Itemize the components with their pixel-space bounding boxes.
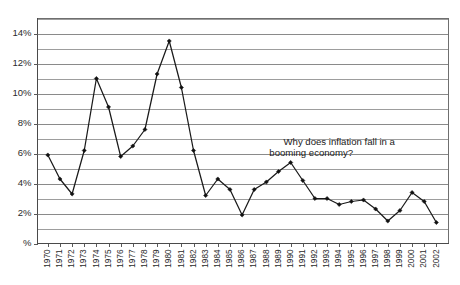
x-axis-tick-label: 1971 [55, 249, 64, 268]
x-axis-tick-label: 1985 [225, 249, 234, 268]
x-axis-tick-label: 1972 [67, 249, 76, 268]
x-axis-tick-label: 2002 [432, 249, 441, 268]
x-axis-tick-label: 1987 [249, 249, 258, 268]
y-axis-tick-label: 14% [12, 27, 32, 38]
annotation-line-1: Why does inflation fall in a [283, 136, 395, 147]
x-axis-tick-label: 1997 [371, 249, 380, 268]
x-axis-tick-label: 1983 [201, 249, 210, 268]
chart-canvas: %2%4%6%8%10%12%14% 197019711972197319741… [0, 0, 460, 285]
x-axis-tick-label: 1988 [262, 249, 271, 268]
x-axis-tick-label: 1995 [347, 249, 356, 268]
x-axis-tick-label: 1975 [104, 249, 113, 268]
x-axis-tick-label: 1994 [334, 249, 343, 268]
x-axis-tick-label: 1984 [213, 249, 222, 268]
x-axis-tick-label: 1999 [395, 249, 404, 268]
y-axis-tick-label: 6% [18, 147, 32, 158]
y-axis-tick-label: % [23, 237, 32, 248]
x-axis-tick-label: 1976 [116, 249, 125, 268]
x-axis-tick-label: 1980 [164, 249, 173, 268]
x-axis-tick-label: 2000 [407, 249, 416, 268]
annotation-line-2: booming economy? [269, 147, 353, 158]
y-axis-tick-label: 2% [18, 207, 32, 218]
x-axis-tick-label: 1990 [286, 249, 295, 268]
x-axis-tick-label: 1978 [140, 249, 149, 268]
x-axis-tick-label: 1996 [359, 249, 368, 268]
y-axis-tick-label: 4% [18, 177, 32, 188]
y-axis-tick-label: 8% [18, 117, 32, 128]
y-axis-tick-label: 12% [12, 57, 32, 68]
x-axis-tick-label: 1973 [79, 249, 88, 268]
inflation-line-chart: %2%4%6%8%10%12%14% 197019711972197319741… [0, 0, 460, 285]
x-axis-tick-label: 1986 [237, 249, 246, 268]
x-axis-tick-label: 1970 [43, 249, 52, 268]
x-axis-tick-label: 1992 [310, 249, 319, 268]
x-axis-tick-label: 1977 [128, 249, 137, 268]
x-axis-tick-label: 1989 [274, 249, 283, 268]
x-axis-tick-label: 2001 [419, 249, 428, 268]
y-axis-tick-label: 10% [12, 87, 32, 98]
x-axis-tick-label: 1993 [322, 249, 331, 268]
x-axis-tick-label: 1974 [92, 249, 101, 268]
x-axis-tick-label: 1982 [189, 249, 198, 268]
x-axis-tick-label: 1981 [177, 249, 186, 268]
x-axis-tick-label: 1991 [298, 249, 307, 268]
x-axis-tick-label: 1979 [152, 249, 161, 268]
x-axis-tick-label: 1998 [383, 249, 392, 268]
